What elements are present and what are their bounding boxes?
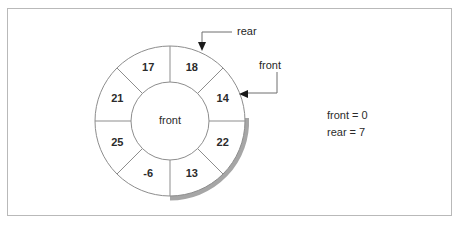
- front-leader-line: [247, 72, 277, 93]
- segment-value-4: -6: [143, 167, 153, 179]
- segment-value-5: 25: [111, 136, 123, 148]
- rear-arrowhead-icon: [198, 42, 206, 51]
- legend-rear-value: rear = 7: [327, 126, 365, 138]
- rear-leader-line: [202, 32, 232, 44]
- segment-value-0: 18: [186, 61, 198, 73]
- front-annotation-label: front: [259, 59, 281, 71]
- segment-value-3: 13: [186, 167, 198, 179]
- center-front-label: front: [159, 114, 181, 126]
- diagram-stage: 18 14 22 13 -6 25 21 17 front rear front…: [0, 0, 461, 228]
- segment-value-2: 22: [217, 136, 229, 148]
- segment-value-1: 14: [217, 92, 230, 104]
- circular-queue-svg: 18 14 22 13 -6 25 21 17 front rear front…: [0, 0, 461, 228]
- legend-front-value: front = 0: [327, 109, 368, 121]
- segment-value-6: 21: [111, 92, 123, 104]
- rear-annotation-label: rear: [237, 25, 257, 37]
- segment-value-7: 17: [142, 61, 154, 73]
